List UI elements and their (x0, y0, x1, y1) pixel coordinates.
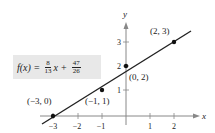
equation-variable: x (54, 62, 58, 73)
y-tick-label: 1 (117, 86, 121, 95)
y-tick-label: 3 (117, 38, 121, 47)
x-axis-label: x (201, 111, 206, 121)
x-tick-label: 2 (172, 122, 176, 131)
data-point (124, 64, 128, 68)
equation-box: f(x) = 8 13 x + 47 26 (13, 55, 101, 79)
x-tick-label: −2 (73, 122, 82, 131)
data-point (172, 40, 176, 44)
slope-fraction: 8 13 (45, 60, 52, 75)
point-label: (2, 3) (150, 26, 170, 36)
equation-equals: = (34, 62, 40, 73)
y-axis-label: y (122, 9, 127, 19)
point-label: (−1, 1) (85, 96, 110, 106)
point-label: (0, 2) (129, 72, 149, 82)
y-tick-label: 2 (117, 62, 121, 71)
equation-plus: + (61, 62, 67, 73)
x-axis-arrow-icon (193, 114, 200, 119)
slope-denominator: 13 (45, 68, 52, 75)
intercept-fraction: 47 26 (72, 60, 81, 75)
equation-lhs: f(x) (17, 62, 31, 73)
y-axis-arrow-icon (124, 22, 129, 29)
intercept-denominator: 26 (73, 68, 80, 75)
x-tick-label: 1 (148, 122, 152, 131)
x-tick-label: −1 (97, 122, 106, 131)
data-point (51, 114, 55, 118)
point-label: (−3, 0) (27, 96, 52, 106)
x-tick-label: −3 (49, 122, 58, 131)
data-point (100, 88, 104, 92)
